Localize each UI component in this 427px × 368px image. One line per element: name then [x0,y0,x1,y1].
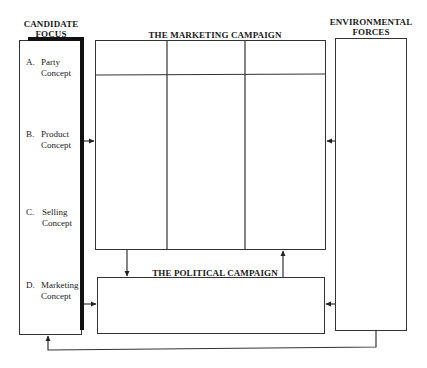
mc-row-divider [96,74,325,75]
arrow-ef-to-cf-feedback [48,331,376,350]
connector-layer [0,0,427,368]
